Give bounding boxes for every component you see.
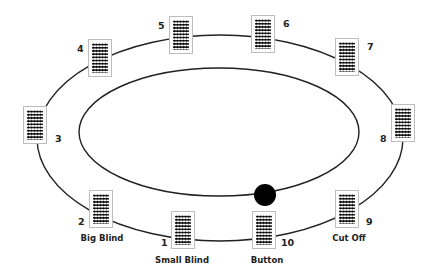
card-back-icon bbox=[339, 42, 355, 72]
seat-4-card bbox=[88, 39, 112, 77]
card-back-icon bbox=[173, 20, 189, 50]
seat-1-number: 1 bbox=[161, 238, 168, 248]
card-back-icon bbox=[92, 43, 108, 73]
card-back-icon bbox=[27, 110, 43, 140]
seat-4-number: 4 bbox=[77, 44, 84, 54]
card-back-icon bbox=[255, 19, 271, 49]
seat-5-number: 5 bbox=[158, 21, 165, 31]
seat-10-card bbox=[252, 211, 276, 249]
seat-10-position-label: Button bbox=[251, 255, 284, 265]
card-back-icon bbox=[339, 194, 355, 224]
seat-10-number: 10 bbox=[281, 238, 294, 248]
seat-9-number: 9 bbox=[366, 217, 373, 227]
seat-3-number: 3 bbox=[55, 134, 62, 144]
seat-6-card bbox=[251, 15, 275, 53]
seat-9-card bbox=[335, 190, 359, 228]
seat-1-position-label: Small Blind bbox=[155, 255, 209, 265]
seat-1-card bbox=[171, 211, 195, 249]
card-back-icon bbox=[395, 108, 411, 138]
seat-2-number: 2 bbox=[78, 217, 85, 227]
seat-9-position-label: Cut Off bbox=[332, 233, 365, 243]
card-back-icon bbox=[175, 215, 191, 245]
seat-7-number: 7 bbox=[367, 42, 374, 52]
seat-8-card bbox=[391, 104, 415, 142]
seat-6-number: 6 bbox=[283, 19, 290, 29]
seat-5-card bbox=[169, 16, 193, 54]
seat-8-number: 8 bbox=[380, 134, 387, 144]
inner-table-felt bbox=[79, 68, 359, 196]
card-back-icon bbox=[93, 194, 109, 224]
seat-2-position-label: Big Blind bbox=[81, 233, 124, 243]
seat-3-card bbox=[23, 106, 47, 144]
seat-2-card bbox=[89, 190, 113, 228]
dealer-button-icon bbox=[254, 184, 276, 206]
seat-7-card bbox=[335, 38, 359, 76]
card-back-icon bbox=[256, 215, 272, 245]
